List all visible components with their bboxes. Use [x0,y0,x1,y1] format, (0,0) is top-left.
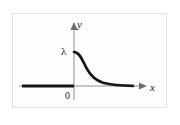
lambda-intercept-label: λ [61,45,67,57]
origin-label: 0 [65,90,70,101]
x-axis-arrow-icon [139,83,147,90]
figure-root: y x λ 0 [0,0,180,125]
exponential-decay-curve [74,52,133,86]
exponential-density-plot: y x λ 0 [13,14,166,107]
x-axis-label: x [149,81,155,93]
figure-panel: y x λ 0 [12,13,167,108]
y-axis-label: y [76,18,82,30]
